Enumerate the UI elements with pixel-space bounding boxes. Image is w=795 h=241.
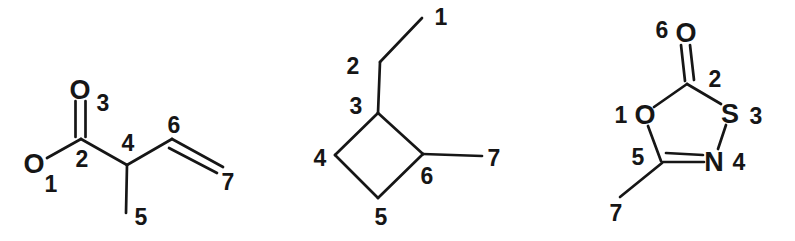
bond-line [666,153,703,155]
molecule-middle: 1234567 [314,4,501,230]
bond-line [648,126,661,161]
position-number-2: 2 [76,146,89,172]
position-number-6: 6 [421,163,434,189]
position-number-6: 6 [656,17,669,43]
bond-line [378,62,380,113]
bond-line [378,154,423,198]
position-number-7: 7 [222,169,235,195]
position-number-7: 7 [610,200,623,226]
bond-line [380,18,422,62]
position-number-4: 4 [314,145,327,171]
atom-label-S: S [721,99,739,129]
molecule-left: OO3214675 [23,75,234,230]
molecule-right: OOSN6213457 [610,17,763,226]
bond-line [335,155,378,198]
position-number-1: 1 [435,4,448,30]
bond-line [681,45,685,81]
position-number-7: 7 [488,145,501,171]
position-number-3: 3 [97,90,110,116]
position-number-4: 4 [122,130,135,156]
position-number-5: 5 [375,204,388,230]
bond-line [335,113,378,155]
position-number-2: 2 [709,66,722,92]
atom-label-O: O [634,100,655,130]
bond-line [690,45,694,80]
position-number-3: 3 [750,103,763,129]
position-number-2: 2 [347,53,360,79]
bond-line [423,154,482,156]
position-number-4: 4 [733,149,746,175]
atom-label-O: O [675,18,696,48]
chemical-structures-figure: OO32146751234567OOSN6213457 [0,0,795,241]
position-number-1: 1 [45,171,58,197]
bond-line [654,84,687,107]
position-number-6: 6 [168,112,181,138]
position-number-1: 1 [615,102,628,128]
atom-label-O: O [69,75,90,105]
atom-label-O: O [23,149,44,179]
atom-label-N: N [704,147,724,177]
position-number-5: 5 [135,204,148,230]
position-number-3: 3 [350,93,363,119]
structures-svg: OO32146751234567OOSN6213457 [0,0,795,241]
bond-line [378,113,423,154]
position-number-5: 5 [632,144,645,170]
bond-line [126,165,127,213]
